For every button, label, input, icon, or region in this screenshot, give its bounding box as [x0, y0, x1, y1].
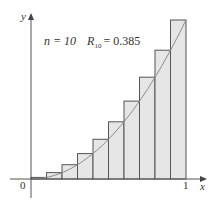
riemann-bar: [171, 20, 187, 179]
x-axis-label: x: [199, 180, 205, 192]
riemann-bar: [155, 50, 171, 179]
riemann-bar: [93, 139, 109, 179]
riemann-bar: [140, 77, 156, 179]
chart-canvas: 0 1 x y n = 10 R10= 0.385: [0, 0, 217, 212]
y-axis-label: y: [20, 10, 26, 22]
annotation: n = 10 R10= 0.385: [44, 34, 140, 50]
riemann-bar: [124, 101, 140, 179]
r-subscript: 10: [94, 42, 102, 50]
y-axis-arrow-icon: [28, 13, 34, 20]
riemann-bar: [78, 154, 94, 179]
riemann-sum-chart: 0 1 x y n = 10 R10= 0.385: [0, 0, 217, 212]
r-value: = 0.385: [103, 34, 140, 48]
n-label: n = 10: [44, 34, 76, 48]
origin-label: 0: [20, 179, 26, 191]
x-tick-1-label: 1: [183, 179, 189, 191]
